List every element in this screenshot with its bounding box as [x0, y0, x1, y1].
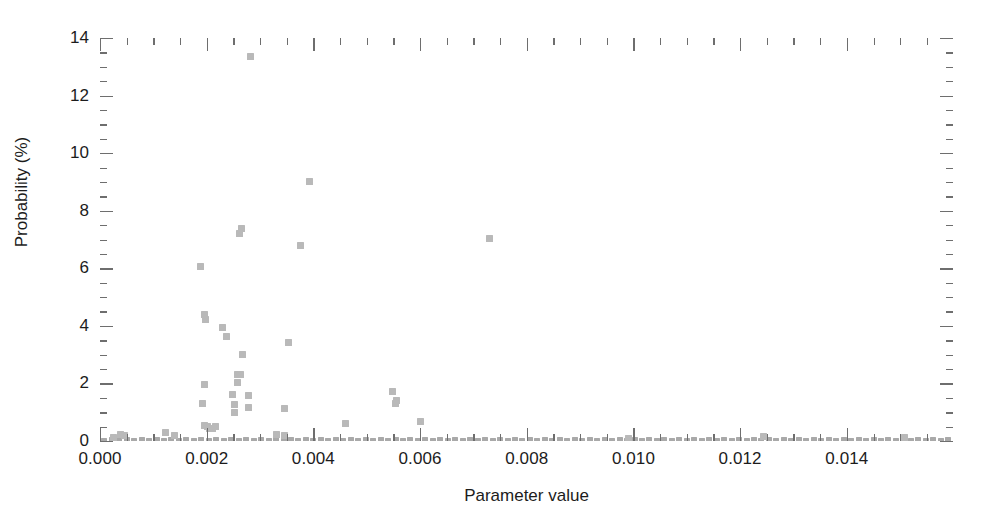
data-point: [202, 316, 209, 323]
data-point: [162, 429, 169, 436]
x-axis-tick-top: [607, 38, 608, 45]
data-point-baseline: [490, 438, 496, 441]
x-axis-tick-top: [313, 38, 314, 51]
x-axis-tick-top: [153, 38, 154, 45]
data-point-baseline: [251, 438, 257, 441]
data-point: [219, 324, 226, 331]
data-point-baseline: [191, 438, 197, 441]
data-point-baseline: [422, 437, 428, 441]
data-point-baseline: [355, 438, 361, 441]
x-axis-tick: [527, 428, 528, 441]
x-axis-tick-top: [580, 38, 581, 45]
data-point-baseline: [856, 437, 862, 441]
x-axis-tick-top: [900, 38, 901, 45]
y-axis-tick-right: [940, 96, 953, 97]
data-point: [247, 53, 254, 60]
y-axis-tick: [100, 110, 107, 111]
data-point: [199, 400, 206, 407]
y-axis-tick-label: 10: [70, 143, 89, 163]
data-point-baseline: [385, 438, 391, 441]
x-axis-tick-label: 0.010: [612, 449, 655, 469]
x-axis-tick: [900, 434, 901, 441]
x-axis-tick-label: 0.014: [825, 449, 868, 469]
scatter-plot-figure: 0.0000.0020.0040.0060.0080.0100.0120.014…: [0, 0, 986, 531]
data-point-baseline: [930, 437, 936, 441]
x-axis-tick: [820, 434, 821, 441]
data-point: [389, 388, 396, 395]
data-point-baseline: [370, 438, 376, 441]
x-axis-tick: [687, 434, 688, 441]
x-axis-tick: [260, 434, 261, 441]
x-axis-tick: [313, 428, 314, 441]
data-point: [212, 423, 219, 430]
data-point-baseline: [796, 437, 802, 441]
data-point-baseline: [617, 437, 623, 441]
x-axis-tick: [767, 434, 768, 441]
x-axis-tick: [180, 434, 181, 441]
y-axis-tick-right: [946, 311, 953, 312]
y-axis-tick-right: [946, 168, 953, 169]
data-point: [281, 405, 288, 412]
data-point-baseline: [303, 437, 309, 441]
y-axis-tick: [100, 297, 107, 298]
data-point-baseline: [437, 437, 443, 441]
x-axis-tick-label: 0.012: [719, 449, 762, 469]
x-axis-tick-top: [233, 38, 234, 45]
x-axis-tick: [127, 434, 128, 441]
x-axis-tick: [420, 428, 421, 441]
data-point-baseline: [908, 438, 914, 441]
data-point-baseline: [266, 438, 272, 441]
data-point-baseline: [706, 437, 712, 441]
y-axis-tick: [100, 427, 107, 428]
y-axis-tick: [100, 211, 113, 212]
y-axis-title: Probability (%): [12, 82, 32, 302]
x-axis-tick-top: [527, 38, 528, 51]
y-axis-tick: [100, 52, 107, 53]
data-point: [245, 392, 252, 399]
y-axis-tick-right: [946, 196, 953, 197]
data-point-baseline: [848, 438, 854, 441]
data-point-baseline: [691, 437, 697, 441]
data-point-baseline: [534, 438, 540, 441]
x-axis-tick-label: 0.002: [185, 449, 228, 469]
y-axis-tick: [100, 369, 107, 370]
x-axis-tick-top: [180, 38, 181, 45]
x-axis-tick: [153, 434, 154, 441]
y-axis-tick-right: [946, 340, 953, 341]
data-point: [625, 435, 632, 441]
x-axis-tick-top: [393, 38, 394, 45]
y-axis-tick: [100, 38, 113, 39]
data-point: [901, 434, 908, 441]
y-axis-tick: [100, 124, 107, 125]
x-axis-tick: [340, 434, 341, 441]
y-axis-tick: [100, 67, 107, 68]
plot-frame: [100, 38, 953, 441]
y-axis-tick-right: [946, 182, 953, 183]
x-axis-tick-top: [874, 38, 875, 45]
data-point-baseline: [198, 437, 204, 441]
y-axis-tick-right: [946, 369, 953, 370]
data-point: [229, 391, 236, 398]
data-point: [297, 242, 304, 249]
data-point-baseline: [676, 437, 682, 441]
y-axis-tick-right: [946, 283, 953, 284]
data-point-baseline: [609, 438, 615, 441]
data-point-baseline: [699, 438, 705, 441]
x-axis-tick-top: [927, 38, 928, 45]
x-axis-tick-top: [660, 38, 661, 45]
y-axis-tick-right: [946, 139, 953, 140]
y-axis-tick-right: [946, 398, 953, 399]
y-axis-tick-right: [946, 110, 953, 111]
x-axis-tick: [660, 434, 661, 441]
x-axis-tick: [393, 434, 394, 441]
data-point-baseline: [236, 438, 242, 441]
x-axis-tick: [847, 428, 848, 441]
y-axis-tick-right: [946, 297, 953, 298]
y-axis-tick-right: [940, 268, 953, 269]
x-axis-tick-top: [687, 38, 688, 45]
data-point-baseline: [325, 438, 331, 441]
y-axis-tick: [100, 139, 107, 140]
x-axis-tick-label: 0.000: [78, 449, 121, 469]
data-point-baseline: [729, 438, 735, 441]
data-point-baseline: [213, 437, 219, 441]
